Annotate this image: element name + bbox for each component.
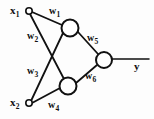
input-label-x2: x2: [10, 97, 19, 108]
weight-label-w4: w4: [48, 100, 59, 110]
output-label-y: y: [134, 61, 140, 72]
input-node-x2: [26, 100, 32, 106]
hidden-node-1: [62, 20, 79, 37]
neural-network-diagram: x1 x2 w1 w2 w3 w4 w5 w6 y: [0, 0, 154, 119]
weight-label-w3: w3: [27, 66, 38, 76]
input-label-x1: x1: [10, 5, 19, 16]
weight-label-w5: w5: [87, 33, 98, 43]
output-node: [96, 52, 112, 68]
weight-label-w2: w2: [27, 31, 38, 41]
weight-label-w1: w1: [49, 6, 60, 16]
network-graph-canvas: [0, 0, 154, 119]
weight-label-w6: w6: [85, 71, 96, 81]
hidden-node-2: [60, 78, 77, 95]
input-node-x1: [26, 8, 32, 14]
